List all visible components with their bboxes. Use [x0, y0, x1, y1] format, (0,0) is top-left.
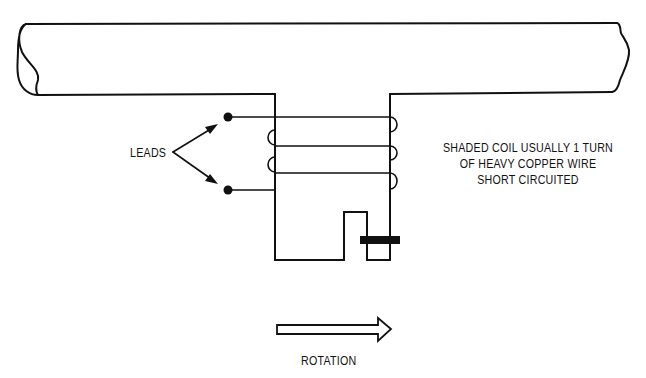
shading-coil — [360, 236, 400, 244]
shaded-coil-note: SHADED COIL USUALLY 1 TURN OF HEAVY COPP… — [408, 140, 646, 188]
lead-terminal-1 — [224, 113, 233, 122]
shaded-coil-note-line2: OF HEAVY COPPER WIRE — [430, 156, 627, 172]
field-winding — [232, 117, 397, 190]
leads-label: LEADS — [130, 145, 166, 161]
shaded-pole-diagram — [0, 0, 646, 378]
shaded-coil-note-line1: SHADED COIL USUALLY 1 TURN — [430, 140, 627, 156]
pole-piece — [275, 94, 390, 260]
rotation-arrow-icon — [277, 318, 391, 341]
rotation-label: ROTATION — [301, 353, 356, 369]
lead-arrowhead-top — [205, 124, 218, 134]
stator-yoke — [17, 23, 629, 95]
lead-terminal-2 — [224, 186, 233, 195]
leads-pointer — [173, 127, 214, 181]
shaded-coil-note-line3: SHORT CIRCUITED — [430, 172, 627, 188]
